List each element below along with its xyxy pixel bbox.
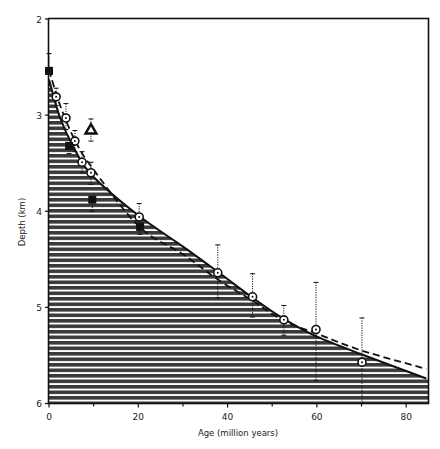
circle-marker-dot bbox=[361, 361, 363, 363]
x-axis-label: Age (million years) bbox=[198, 428, 278, 438]
circle-marker-dot bbox=[65, 117, 67, 119]
circle-marker-dot bbox=[315, 328, 317, 330]
y-tick-label: 4 bbox=[36, 207, 42, 217]
circle-marker-dot bbox=[90, 172, 92, 174]
circle-marker-dot bbox=[55, 96, 57, 98]
x-tick-label: 0 bbox=[46, 412, 52, 422]
hatched-region bbox=[49, 80, 429, 404]
circle-marker-dot bbox=[81, 161, 83, 163]
circle-marker-dot bbox=[74, 140, 76, 142]
x-axis: 020406080 bbox=[46, 404, 412, 422]
y-axis-label: Depth (km) bbox=[17, 198, 27, 246]
square-marker bbox=[65, 142, 73, 150]
x-tick-label: 80 bbox=[400, 412, 412, 422]
square-marker bbox=[136, 223, 144, 231]
y-tick-label: 5 bbox=[36, 303, 42, 313]
circle-marker-dot bbox=[138, 216, 140, 218]
y-tick-label: 2 bbox=[36, 15, 42, 25]
circle-marker-dot bbox=[283, 319, 285, 321]
circle-marker-dot bbox=[217, 272, 219, 274]
square-marker bbox=[88, 196, 96, 204]
y-tick-label: 6 bbox=[36, 399, 42, 409]
hatched-area bbox=[49, 80, 429, 404]
x-tick-label: 60 bbox=[311, 412, 323, 422]
depth-age-chart: 020406080 23456 Age (million years) Dept… bbox=[0, 0, 440, 449]
y-tick-label: 3 bbox=[36, 111, 42, 121]
circle-marker-dot bbox=[252, 296, 254, 298]
x-tick-label: 20 bbox=[133, 412, 145, 422]
triangle-marker bbox=[85, 124, 96, 134]
x-tick-label: 40 bbox=[222, 412, 234, 422]
